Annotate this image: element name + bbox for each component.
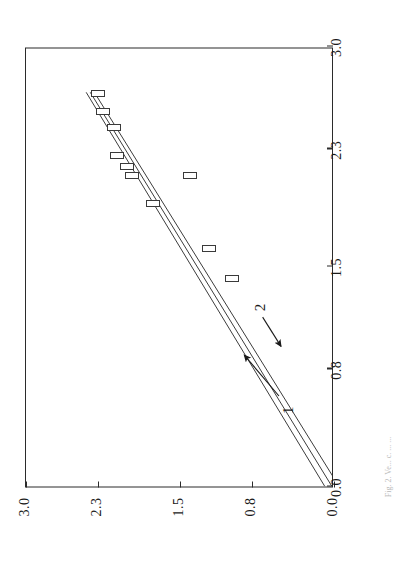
y-tick-label: 1.5 <box>171 497 187 516</box>
y-tick-label: 0.0 <box>325 497 341 516</box>
y-tick <box>98 481 99 487</box>
data-marker <box>225 274 239 281</box>
data-marker <box>202 245 216 252</box>
data-marker <box>125 172 139 179</box>
x-tick-label: 3.0 <box>329 38 345 57</box>
x-tick-label: 0.0 <box>329 478 345 497</box>
y-tick-label: 0.8 <box>243 497 259 516</box>
data-marker <box>120 163 134 170</box>
plot-lines-overlay <box>26 48 332 486</box>
y-tick <box>180 481 181 487</box>
figure-root: 12 0.00.81.52.33.0 0.00.81.52.33.0 Fig. … <box>0 0 396 565</box>
regression-line-middle <box>90 92 332 486</box>
rotated-plot-container: 12 0.00.81.52.33.0 0.00.81.52.33.0 <box>13 20 383 545</box>
data-marker <box>96 107 110 114</box>
y-tick-label: 3.0 <box>17 497 33 516</box>
data-marker <box>107 123 121 130</box>
x-tick-label: 2.3 <box>329 140 345 159</box>
x-tick-label: 1.5 <box>329 258 345 277</box>
regression-line-1 <box>94 92 332 486</box>
plot-area: 12 <box>26 48 332 486</box>
plot-frame: 12 <box>25 47 333 487</box>
data-marker <box>183 172 197 179</box>
figure-caption: Fig. 2. Ve... c. ... ... <box>384 437 393 498</box>
annotation-label-1: 1 <box>279 406 296 414</box>
plot-stage: 12 0.00.81.52.33.0 0.00.81.52.33.0 <box>13 20 383 545</box>
y-tick-label: 2.3 <box>89 497 105 516</box>
annotation-arrow-1 <box>244 355 279 396</box>
y-tick <box>26 481 27 487</box>
annotation-label-2: 2 <box>252 303 269 311</box>
figure-caption-strip: Fig. 2. Ve... c. ... ... <box>381 382 395 552</box>
data-marker <box>91 89 105 96</box>
annotation-arrow-2 <box>263 317 281 346</box>
x-tick-label: 0.8 <box>329 360 345 379</box>
data-marker <box>110 151 124 158</box>
data-marker <box>146 199 160 206</box>
annotation-arrows <box>244 317 281 396</box>
y-tick <box>252 481 253 487</box>
